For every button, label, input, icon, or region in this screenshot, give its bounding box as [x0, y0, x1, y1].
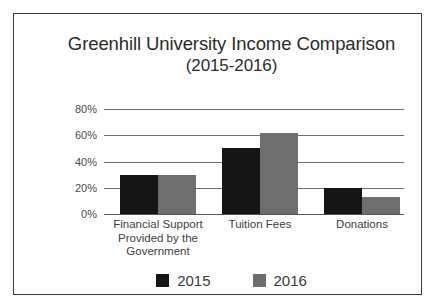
bar-2016-tuition-fees[interactable] [260, 133, 298, 214]
bar-2016-donations[interactable] [362, 197, 400, 214]
chart-title-line-1: Greenhill University Income Comparison [34, 32, 429, 55]
legend-label-2016: 2016 [274, 272, 307, 289]
category-label-line-3: Government [83, 245, 233, 259]
chart-legend: 2015 2016 [14, 272, 435, 289]
bar-2015-donations[interactable] [324, 188, 362, 214]
legend-item-2016[interactable]: 2016 [253, 272, 307, 289]
category-label-line-2: Provided by the [83, 232, 233, 246]
ytick-label-20: 20% [75, 182, 97, 194]
legend-label-2015: 2015 [177, 272, 210, 289]
bar-group-tuition-fees: Tuition Fees [222, 109, 298, 214]
bar-2016-financial-support[interactable] [158, 175, 196, 214]
chart-figure: Greenhill University Income Comparison (… [0, 0, 435, 308]
legend-item-2015[interactable]: 2015 [156, 272, 210, 289]
chart-title: Greenhill University Income Comparison (… [34, 32, 429, 76]
category-label-donations: Donations [287, 218, 435, 232]
legend-swatch-2016 [253, 274, 266, 287]
bar-group-donations: Donations [324, 109, 400, 214]
ytick-label-60: 60% [75, 129, 97, 141]
bar-group-financial-support: Financial Support Provided by the Govern… [120, 109, 196, 214]
chart-frame: Greenhill University Income Comparison (… [13, 13, 422, 295]
category-label-line-1: Donations [287, 218, 435, 232]
ytick-label-40: 40% [75, 156, 97, 168]
legend-swatch-2015 [156, 274, 169, 287]
bar-2015-financial-support[interactable] [120, 175, 158, 214]
gridline-0: 0% [104, 214, 404, 215]
ytick-label-80: 80% [75, 103, 97, 115]
chart-title-line-2: (2015-2016) [34, 55, 429, 76]
plot-area: 80% 60% 40% 20% 0% Financial Support Pro… [104, 109, 404, 214]
bar-2015-tuition-fees[interactable] [222, 148, 260, 214]
